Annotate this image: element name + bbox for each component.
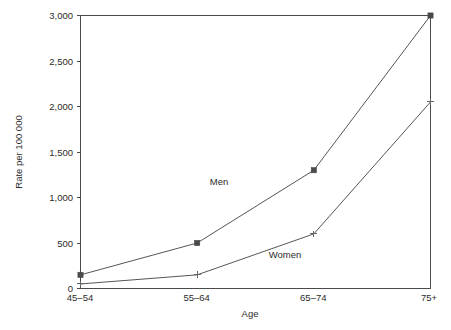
data-point-marker (311, 168, 316, 173)
data-point-marker (195, 240, 200, 245)
x-tick-label-45-54: 45–54 (67, 292, 93, 303)
x-axis-title: Age (242, 308, 259, 319)
y-tick-label-500: 500 (57, 238, 73, 249)
y-tick-label-2000: 2,000 (49, 101, 73, 112)
y-tick-label-3000: 3,000 (49, 10, 73, 21)
y-tick-label-2500: 2,500 (49, 56, 73, 67)
x-tick-label-75plus: 75+ (421, 292, 438, 303)
y-axis-title: Rate per 100 000 (13, 115, 24, 188)
y-tick-label-1000: 1,000 (49, 192, 73, 203)
chart-figure: 0 500 1,000 1,500 2,000 2,500 3,000 Rate… (0, 0, 451, 330)
data-point-marker (78, 272, 83, 277)
series-label-women: Women (269, 249, 302, 260)
series-label-men: Men (210, 176, 228, 187)
figure-background (0, 0, 451, 330)
data-point-marker (428, 13, 433, 18)
line-chart: 0 500 1,000 1,500 2,000 2,500 3,000 Rate… (0, 0, 451, 330)
y-tick-label-1500: 1,500 (49, 147, 73, 158)
x-tick-label-55-64: 55–64 (183, 292, 209, 303)
x-tick-label-65-74: 65–74 (300, 292, 326, 303)
